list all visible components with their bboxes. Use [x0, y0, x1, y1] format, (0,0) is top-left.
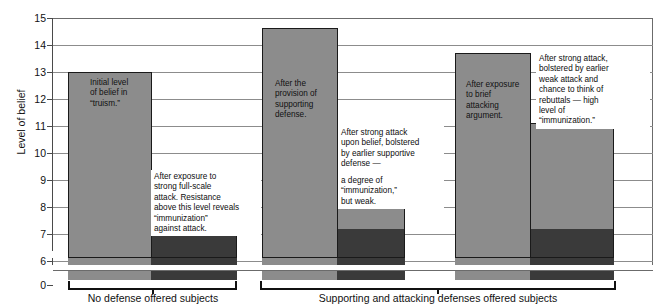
note-after-attack-bolstered: After strong attack upon belief, bolster… — [338, 126, 444, 172]
base-block-bar5 — [455, 270, 531, 280]
y-tick-9: 9 — [24, 175, 46, 185]
y-axis-line — [52, 18, 53, 265]
y-tick-6: 6 — [24, 256, 46, 266]
y-tick-8: 8 — [24, 202, 46, 212]
bar-after-attack-with-supportive-defense-lower — [337, 229, 405, 258]
y-tick-13: 13 — [24, 67, 46, 77]
base-block-bar2 — [151, 270, 237, 280]
plot-border-top — [53, 18, 653, 19]
group-label-no-defense: No defense offered subjects — [63, 292, 243, 304]
group-label-defenses-offered: Supporting and attacking defenses offere… — [258, 292, 618, 304]
note-after-strong-attack-high-immunization: After strong attack, bolstered by earlie… — [536, 52, 650, 129]
y-tick-7: 7 — [24, 229, 46, 239]
base-block-bar1 — [68, 270, 152, 280]
plot-baseline — [53, 270, 653, 271]
note-after-strong-attack-no-defense: After exposure to strong full-scale atta… — [151, 170, 261, 236]
y-tick-12: 12 — [24, 94, 46, 104]
base-strip-bar6 — [530, 258, 614, 265]
note-degree-immunization-weak: a degree of “immunization,” but weak. — [338, 174, 444, 209]
base-block-bar4 — [337, 270, 405, 280]
base-block-bar3 — [262, 270, 338, 280]
y-tick-11: 11 — [24, 121, 46, 131]
tickmark-0 — [47, 285, 53, 286]
note-after-supporting-defense: After the provision of supporting defens… — [272, 77, 340, 123]
base-strip-bar2 — [151, 258, 237, 265]
bar-after-supporting-defense — [262, 28, 338, 258]
base-strip-bar4 — [337, 258, 405, 265]
y-axis-break — [47, 251, 59, 258]
y-tick-10: 10 — [24, 148, 46, 158]
base-block-bar6 — [530, 270, 614, 280]
note-initial-belief: Initial level of belief in “truism.” — [87, 76, 159, 111]
plot-border-right — [652, 18, 653, 265]
gridline-14 — [53, 45, 653, 46]
y-tick-15: 15 — [24, 13, 46, 23]
note-after-brief-attacking-argument: After exposure to brief attacking argume… — [463, 78, 531, 124]
bar-after-attack-weak-defense-upper — [530, 123, 614, 230]
chart-root: Level of belief 15 14 13 12 11 10 9 8 7 … — [0, 0, 656, 307]
y-tick-0: 0 — [24, 280, 46, 290]
base-strip-bar5 — [455, 258, 531, 265]
base-strip-bar3 — [262, 258, 338, 265]
bar-after-attack-weak-defense-lower — [530, 229, 614, 258]
base-strip-bar1 — [68, 258, 152, 265]
y-tick-14: 14 — [24, 40, 46, 50]
